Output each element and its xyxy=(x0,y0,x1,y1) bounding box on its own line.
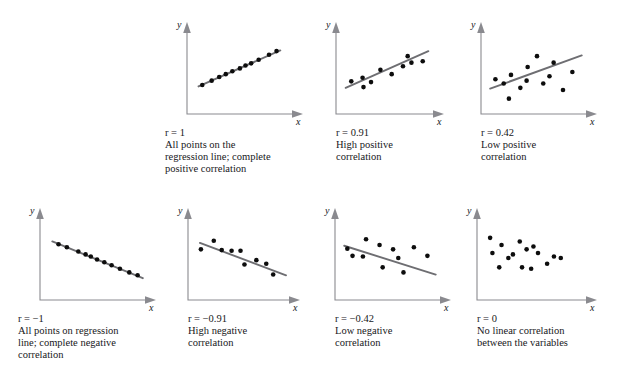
scatter-svg-r-0: y x xyxy=(455,200,615,315)
data-point xyxy=(541,81,546,86)
data-series-r-1 xyxy=(199,49,281,87)
data-point xyxy=(89,254,94,259)
data-point xyxy=(396,256,401,261)
data-point xyxy=(219,248,224,253)
y-axis-label: y xyxy=(325,19,331,30)
panel-r-0-91: y x r = 0.91 High positive correlation xyxy=(314,14,454,163)
data-point xyxy=(377,243,382,248)
data-point xyxy=(559,256,564,261)
data-point xyxy=(506,256,511,261)
data-point xyxy=(531,244,536,249)
data-point xyxy=(271,272,276,277)
data-point xyxy=(238,66,243,71)
plot-r-0-91: y x xyxy=(314,14,454,129)
x-axis-label: x xyxy=(148,302,154,313)
caption-r-neg-0-91: High negative correlation xyxy=(166,325,311,349)
panel-r-neg-0-42: y x r = −0.42 Low negative correlation xyxy=(313,200,463,349)
data-point xyxy=(525,65,530,70)
data-point xyxy=(76,249,81,254)
data-point xyxy=(230,69,235,74)
panel-r-0-42: y x r = 0.42 Low positive correlation xyxy=(459,14,609,163)
data-point xyxy=(552,254,557,259)
regression-line xyxy=(200,243,286,275)
plot-r-neg-0-91: y x xyxy=(166,200,311,315)
data-point xyxy=(412,245,417,250)
axes-r-0-91: y x xyxy=(325,19,444,127)
data-point xyxy=(497,265,502,270)
data-point xyxy=(389,72,394,77)
y-axis-label: y xyxy=(324,205,330,216)
data-series-r-0-91 xyxy=(346,51,429,89)
data-series-r-neg-1 xyxy=(52,241,142,278)
data-point xyxy=(524,78,529,83)
data-point xyxy=(570,70,575,75)
data-point xyxy=(561,88,566,93)
data-point xyxy=(127,270,132,275)
data-point xyxy=(109,263,114,268)
data-point xyxy=(56,242,61,247)
data-point xyxy=(229,249,234,254)
caption-r-neg-1: All points on regression line; complete … xyxy=(18,325,168,360)
plot-r-neg-1: y x xyxy=(18,200,168,315)
data-point xyxy=(545,261,550,266)
axes-r-neg-0-91: y x xyxy=(177,205,300,313)
data-series-r-0-42 xyxy=(490,54,582,101)
data-point xyxy=(254,258,259,263)
data-point xyxy=(361,254,366,259)
data-point xyxy=(264,261,269,266)
caption-r-0: No linear correlation between the variab… xyxy=(455,325,615,349)
y-axis-label: y xyxy=(466,205,472,216)
data-point xyxy=(509,73,514,78)
data-point xyxy=(135,273,140,278)
data-point xyxy=(536,251,541,256)
data-point xyxy=(350,254,355,259)
data-point xyxy=(493,77,498,82)
scatter-svg-r-neg-0-42: y x xyxy=(313,200,463,315)
axes-r-neg-1: y x xyxy=(29,205,156,313)
data-point xyxy=(65,245,70,250)
plot-r-0-42: y x xyxy=(459,14,609,129)
data-point xyxy=(199,247,204,252)
data-series-r-0 xyxy=(488,236,563,272)
data-point xyxy=(490,251,495,256)
x-axis-label: x xyxy=(295,116,301,127)
data-point xyxy=(238,249,243,254)
caption-r-0-42: Low positive correlation xyxy=(459,139,609,163)
regression-line xyxy=(344,246,436,275)
scatter-svg-r-neg-1: y x xyxy=(18,200,168,315)
data-point xyxy=(517,239,522,244)
data-point xyxy=(256,57,261,62)
data-point xyxy=(535,54,540,59)
data-point xyxy=(200,83,205,88)
caption-r-1: All points on the regression line; compl… xyxy=(165,139,310,174)
data-point xyxy=(401,270,406,275)
data-point xyxy=(547,74,552,79)
data-point xyxy=(217,75,222,80)
data-series-r-neg-0-42 xyxy=(344,237,436,275)
axes-r-1: y x xyxy=(176,19,303,127)
caption-r-neg-0-42: Low negative correlation xyxy=(313,325,463,349)
data-point xyxy=(488,236,493,241)
data-point xyxy=(274,49,279,54)
x-axis-label: x xyxy=(436,116,442,127)
data-point xyxy=(249,61,254,66)
data-point xyxy=(223,72,228,77)
panel-r-1: y x r = 1 All points on the regression l… xyxy=(165,14,310,174)
panel-r-neg-1: y x r = −1 All points on regression line… xyxy=(18,200,168,360)
data-point xyxy=(361,85,366,90)
correlation-figure: y x r = 1 All points on the regression l… xyxy=(0,0,619,387)
data-point xyxy=(401,64,406,69)
data-point xyxy=(243,63,248,68)
data-point xyxy=(507,96,512,101)
data-point xyxy=(551,60,556,65)
y-axis-label: y xyxy=(470,19,476,30)
data-point xyxy=(360,75,365,80)
data-point xyxy=(405,54,410,59)
data-point xyxy=(209,78,214,83)
data-point xyxy=(349,79,354,84)
y-axis-label: y xyxy=(29,205,35,216)
data-point xyxy=(511,252,516,257)
scatter-svg-r-0-91: y x xyxy=(314,14,454,129)
data-point xyxy=(409,60,414,65)
data-point xyxy=(369,80,374,85)
